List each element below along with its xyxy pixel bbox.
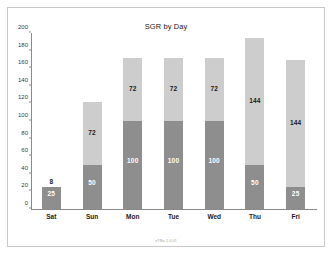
bar-total-label: 8 (42, 179, 61, 186)
bar-segment-base (205, 202, 224, 209)
bar-segment-middle: 100 (164, 121, 183, 202)
bar-segment-middle: 25 (42, 187, 61, 202)
bar-segment-base (164, 202, 183, 209)
bar-segment-label: 25 (292, 191, 300, 198)
y-axis-tick-label: 0 (25, 200, 28, 206)
x-axis-label-fri: Fri (275, 213, 316, 220)
x-axis-label-wed: Wed (194, 213, 235, 220)
bar-segment-top: 72 (83, 102, 102, 165)
y-axis-tick-label: 20 (21, 182, 28, 188)
bar-segment-middle: 100 (123, 121, 142, 202)
y-axis-tick-mark (29, 190, 31, 191)
bar-segment-label: 72 (88, 130, 96, 137)
bar-segment-label: 25 (48, 191, 56, 198)
y-axis-tick-label: 100 (18, 112, 28, 118)
bar-segment-label: 72 (210, 86, 218, 93)
y-axis-tick-label: 180 (18, 42, 28, 48)
bar-segment-top: 144 (245, 38, 264, 165)
bar-tue[interactable]: 10072 (164, 58, 183, 209)
y-axis-tick-mark (29, 155, 31, 156)
y-axis-tick-label: 40 (21, 165, 28, 171)
bar-segment-middle: 100 (205, 121, 224, 202)
x-axis-label-mon: Mon (112, 213, 153, 220)
bar-fri[interactable]: 25144 (286, 60, 305, 209)
bar-sun[interactable]: 5072 (83, 102, 102, 209)
bar-segment-base (83, 202, 102, 209)
x-axis-line (31, 209, 317, 210)
bar-segment-top: 72 (205, 58, 224, 121)
bar-wed[interactable]: 10072 (205, 58, 224, 209)
bar-segment-label: 50 (88, 180, 96, 187)
bar-segment-label: 72 (170, 86, 178, 93)
bar-segment-top: 144 (286, 60, 305, 187)
y-axis-tick-label: 160 (18, 59, 28, 65)
bar-segment-base (245, 202, 264, 209)
x-axis-label-thu: Thu (235, 213, 276, 220)
bar-segment-top: 72 (123, 58, 142, 121)
bar-mon[interactable]: 10072 (123, 58, 142, 209)
y-axis-tick-mark (29, 49, 31, 50)
bar-segment-label: 100 (127, 158, 138, 165)
y-axis-tick-mark (29, 120, 31, 121)
bar-segment-top: 72 (164, 58, 183, 121)
bar-segment-base (42, 202, 61, 209)
bar-sat[interactable]: 258 (42, 187, 61, 209)
bar-segment-label: 144 (290, 120, 301, 127)
bar-segment-middle: 50 (83, 165, 102, 202)
chart-title: SGR by Day (8, 22, 324, 31)
y-axis-tick-mark (29, 67, 31, 68)
y-axis-tick-mark (29, 102, 31, 103)
bar-segment-label: 100 (208, 158, 219, 165)
y-axis-tick-mark (29, 137, 31, 138)
x-axis-label-tue: Tue (153, 213, 194, 220)
y-axis-tick-mark (29, 32, 31, 33)
bar-segment-base (123, 202, 142, 209)
y-axis-tick-label: 120 (18, 94, 28, 100)
y-axis-tick-label: 80 (21, 130, 28, 136)
bar-segment-label: 144 (249, 98, 260, 105)
plot-area: 0204060801001201401601802002585072100721… (31, 33, 316, 209)
bar-segment-label: 100 (168, 158, 179, 165)
bar-thu[interactable]: 50144 (245, 38, 264, 209)
y-axis-tick-label: 60 (21, 147, 28, 153)
y-axis-tick-mark (29, 208, 31, 209)
x-axis-label-sat: Sat (31, 213, 72, 220)
bar-segment-middle: 25 (286, 187, 305, 202)
bar-segment-label: 72 (129, 86, 137, 93)
y-axis-tick-label: 200 (18, 24, 28, 30)
bar-segment-base (286, 202, 305, 209)
chart-footer-note: nTNe-1.0.01 (8, 239, 324, 243)
y-axis-tick-mark (29, 172, 31, 173)
bar-segment-label: 50 (251, 180, 259, 187)
y-axis-tick-label: 140 (18, 77, 28, 83)
bar-segment-middle: 50 (245, 165, 264, 202)
y-axis-tick-mark (29, 84, 31, 85)
x-axis-label-sun: Sun (72, 213, 113, 220)
